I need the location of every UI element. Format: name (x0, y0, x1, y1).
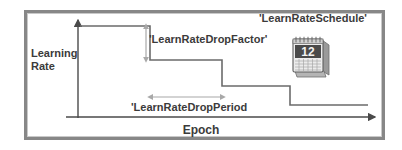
annotation-drop-factor: 'LearnRateDropFactor' (149, 33, 267, 46)
x-axis-label: Epoch (0, 124, 402, 138)
calendar-day-number: 12 (301, 45, 315, 59)
annotation-learn-rate-schedule: 'LearnRateSchedule' (259, 12, 367, 25)
learn-rate-schedule-diagram: 12 Learning Rate Epoch 'LearnRateDropFac… (0, 0, 402, 150)
calendar-icon: 12 (289, 34, 331, 80)
y-axis-label: Learning Rate (31, 47, 77, 72)
y-axis-label-line2: Rate (31, 60, 77, 73)
y-axis-label-line1: Learning (31, 47, 77, 60)
annotation-drop-period: 'LearnRateDropPeriod (131, 101, 247, 114)
